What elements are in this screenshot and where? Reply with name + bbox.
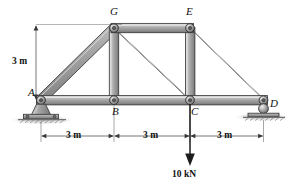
load-label: 10 kN <box>172 170 196 180</box>
dimension-label-vertical: 3 m <box>12 57 27 67</box>
joint-label-G: G <box>110 6 118 17</box>
dimension-label-span-3: 3 m <box>217 131 232 141</box>
joint-pin-A <box>37 96 46 105</box>
member-G-C <box>111 25 193 103</box>
truss-drawing-canvas <box>0 0 290 189</box>
joint-pin-G <box>110 24 119 33</box>
joint-label-D: D <box>270 98 278 109</box>
joint-label-E: E <box>186 6 193 17</box>
dimension-label-span-1: 3 m <box>66 131 81 141</box>
joint-pin-C <box>186 96 195 105</box>
member-E-D <box>187 25 267 103</box>
member-G-E <box>111 23 194 32</box>
joint-label-B: B <box>112 106 119 117</box>
joint-label-A: A <box>28 87 35 98</box>
member-G-B <box>109 28 118 101</box>
joint-label-C: C <box>191 106 198 117</box>
truss-figure: G E A B C D 3 m 3 m 3 m 3 m 10 kN <box>0 0 290 189</box>
joint-pin-E <box>186 24 195 33</box>
member-A-G <box>37 25 117 104</box>
dimension-label-span-2: 3 m <box>143 131 158 141</box>
member-E-C <box>186 28 195 101</box>
member-A-D-bottom-chord <box>37 96 268 105</box>
joint-pin-B <box>110 96 119 105</box>
